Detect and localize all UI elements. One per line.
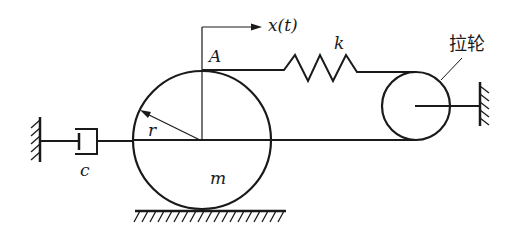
displacement-arrow: [202, 24, 262, 141]
pulley-leader-line: [441, 58, 462, 80]
right-wall: [480, 82, 489, 126]
pulley-label: 拉轮: [449, 35, 485, 53]
damper: [40, 129, 133, 154]
spring: [202, 55, 416, 81]
ground: [134, 211, 286, 222]
displacement-label: x(t): [268, 17, 298, 34]
damper-label: c: [80, 162, 90, 179]
diagram-canvas: [0, 0, 513, 243]
point-a-label: A: [209, 48, 221, 65]
mass-label: m: [210, 170, 226, 187]
left-wall: [31, 117, 40, 162]
radius-label: r: [148, 122, 156, 139]
spring-label: k: [334, 35, 344, 52]
